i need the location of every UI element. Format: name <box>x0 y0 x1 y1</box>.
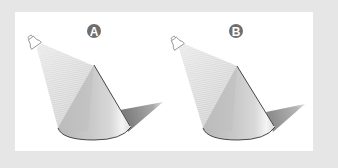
label-badge-a: A <box>87 24 101 39</box>
panel-a: A <box>25 24 163 140</box>
label-badge-b: B <box>229 24 243 39</box>
svg-text:A: A <box>90 25 99 39</box>
cone-lighting-diagram: A B <box>0 0 338 168</box>
panel-b: B <box>168 24 305 140</box>
svg-text:B: B <box>232 25 241 39</box>
